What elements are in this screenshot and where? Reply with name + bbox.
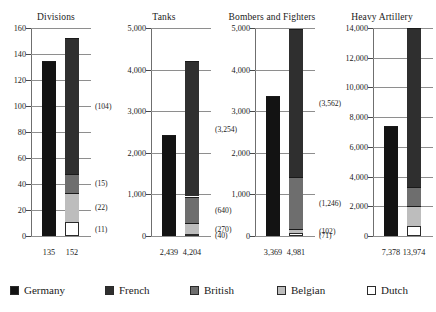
y-tick-mark — [26, 106, 31, 107]
chart-bar[interactable] — [185, 61, 199, 236]
chart-root: Divisions020406080100120140160135(11)(22… — [0, 0, 436, 312]
panel-title: Tanks — [112, 12, 216, 22]
gridline — [373, 117, 433, 118]
bar-segment-dutch[interactable] — [65, 222, 79, 236]
bar-segment-germany[interactable] — [384, 126, 398, 236]
y-axis-line — [255, 28, 256, 237]
y-tick-mark — [368, 58, 373, 59]
chart-bar[interactable] — [162, 135, 176, 236]
gridline — [373, 58, 433, 59]
chart-bar[interactable] — [407, 28, 421, 236]
bar-segment-british[interactable] — [65, 174, 79, 194]
y-tick-label: 5,000 — [112, 24, 146, 33]
legend-swatch-icon — [190, 286, 199, 295]
y-tick-label: 60 — [0, 154, 26, 163]
y-tick-label: 80 — [0, 128, 26, 137]
bar-segment-belgian[interactable] — [65, 193, 79, 222]
chart-panel: Tanks01,0002,0003,0004,0005,0002,439(40)… — [112, 0, 216, 276]
y-tick-label: 12,000 — [328, 54, 368, 63]
gridline — [255, 111, 315, 112]
gridline — [255, 194, 315, 195]
bar-segment-french[interactable] — [289, 29, 303, 177]
gridline — [255, 70, 315, 71]
y-tick-label: 1,000 — [216, 190, 250, 199]
y-tick-mark — [26, 54, 31, 55]
y-tick-label: 0 — [328, 232, 368, 241]
bar-segment-british[interactable] — [185, 197, 199, 224]
y-tick-mark — [250, 236, 255, 237]
gridline — [31, 54, 91, 55]
y-tick-mark — [146, 153, 151, 154]
bar-segment-germany[interactable] — [266, 96, 280, 236]
gridline — [373, 87, 433, 88]
bar-total-label: 4,204 — [174, 248, 210, 257]
gridline — [31, 80, 91, 81]
y-tick-mark — [146, 70, 151, 71]
y-tick-mark — [368, 117, 373, 118]
chart-panel: Heavy Artillery02,0004,0006,0008,00010,0… — [328, 0, 436, 276]
bar-segment-british[interactable] — [407, 187, 421, 206]
bar-segment-germany[interactable] — [162, 135, 176, 236]
bar-segment-dutch[interactable] — [407, 226, 421, 236]
y-tick-label: 4,000 — [216, 66, 250, 75]
y-tick-mark — [250, 28, 255, 29]
chart-bar[interactable] — [266, 96, 280, 236]
y-tick-mark — [368, 87, 373, 88]
bar-segment-french[interactable] — [407, 28, 421, 187]
segment-annotation: (22) — [95, 203, 108, 212]
y-tick-label: 40 — [0, 180, 26, 189]
bar-segment-belgian[interactable] — [289, 229, 303, 233]
chart-bar[interactable] — [289, 29, 303, 236]
gridline — [255, 28, 315, 29]
bar-segment-british[interactable] — [289, 177, 303, 229]
chart-bar[interactable] — [42, 60, 56, 236]
bar-total-label: 4,981 — [278, 248, 314, 257]
bar-segment-dutch[interactable] — [289, 233, 303, 236]
chart-bar[interactable] — [384, 126, 398, 236]
y-tick-mark — [250, 194, 255, 195]
gridline — [373, 147, 433, 148]
y-tick-label: 100 — [0, 102, 26, 111]
bar-segment-belgian[interactable] — [407, 206, 421, 226]
y-tick-label: 0 — [112, 232, 146, 241]
gridline — [373, 177, 433, 178]
segment-annotation: (104) — [95, 102, 111, 111]
legend-item-dutch[interactable]: Dutch — [367, 284, 408, 296]
bar-segment-french[interactable] — [65, 38, 79, 173]
gridline — [31, 210, 91, 211]
bar-segment-french[interactable] — [185, 61, 199, 196]
legend-swatch-icon — [277, 286, 286, 295]
bar-segment-belgian[interactable] — [185, 223, 199, 234]
gridline — [255, 153, 315, 154]
legend-label: Germany — [24, 284, 65, 296]
y-axis-line — [151, 28, 152, 237]
chart-panels: Divisions020406080100120140160135(11)(22… — [0, 0, 436, 276]
legend-label: Belgian — [291, 284, 325, 296]
y-tick-mark — [250, 153, 255, 154]
y-tick-mark — [26, 132, 31, 133]
legend-item-germany[interactable]: Germany — [10, 284, 65, 296]
legend-swatch-icon — [367, 286, 376, 295]
chart-bar[interactable] — [65, 38, 79, 236]
legend-item-british[interactable]: British — [190, 284, 234, 296]
y-tick-mark — [26, 158, 31, 159]
legend-item-belgian[interactable]: Belgian — [277, 284, 325, 296]
gridline — [31, 158, 91, 159]
y-tick-label: 5,000 — [216, 24, 250, 33]
panel-title: Divisions — [0, 12, 112, 22]
bar-total-label: 13,974 — [396, 248, 432, 257]
y-tick-label: 2,000 — [112, 149, 146, 158]
bar-segment-germany[interactable] — [42, 61, 56, 237]
y-tick-label: 20 — [0, 206, 26, 215]
y-tick-mark — [146, 111, 151, 112]
y-tick-label: 6,000 — [328, 143, 368, 152]
legend-item-french[interactable]: French — [105, 284, 150, 296]
legend-label: Dutch — [381, 284, 408, 296]
y-tick-mark — [26, 210, 31, 211]
segment-annotation: (15) — [95, 179, 108, 188]
segment-annotation: (11) — [95, 225, 107, 234]
panel-title: Heavy Artillery — [328, 12, 436, 22]
y-tick-label: 160 — [0, 24, 26, 33]
y-tick-label: 140 — [0, 50, 26, 59]
y-tick-mark — [250, 70, 255, 71]
